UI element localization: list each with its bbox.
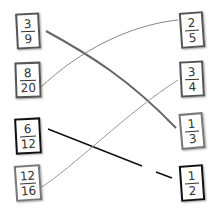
denominator: 4 xyxy=(188,80,196,92)
numerator: 1 xyxy=(187,169,195,182)
card-left-3[interactable]: 6 12 xyxy=(14,117,42,154)
card-right-2[interactable]: 3 4 xyxy=(179,60,205,97)
denominator: 16 xyxy=(20,184,36,197)
numerator: 2 xyxy=(187,16,195,29)
numerator: 3 xyxy=(187,65,195,77)
denominator: 3 xyxy=(188,132,197,145)
card-left-1[interactable]: 3 9 xyxy=(15,12,41,49)
numerator: 1 xyxy=(187,117,196,130)
denominator: 9 xyxy=(24,32,32,44)
numerator: 8 xyxy=(24,66,32,78)
line-3-9-to-1-3 xyxy=(46,31,176,128)
card-left-4[interactable]: 12 16 xyxy=(14,164,42,202)
line-6-12-to-1-2-tail xyxy=(156,172,172,178)
card-right-3[interactable]: 1 3 xyxy=(178,112,205,150)
numerator: 12 xyxy=(19,169,35,182)
line-8-20-to-2-5 xyxy=(40,20,178,88)
line-6-12-to-1-2 xyxy=(48,129,142,166)
numerator: 6 xyxy=(23,122,31,134)
denominator: 5 xyxy=(188,31,196,44)
denominator: 2 xyxy=(188,184,196,197)
card-left-2[interactable]: 8 20 xyxy=(14,62,41,99)
card-right-1[interactable]: 2 5 xyxy=(179,11,205,49)
denominator: 12 xyxy=(20,137,36,150)
denominator: 20 xyxy=(20,81,36,94)
card-right-4[interactable]: 1 2 xyxy=(179,164,205,202)
numerator: 3 xyxy=(23,17,31,29)
